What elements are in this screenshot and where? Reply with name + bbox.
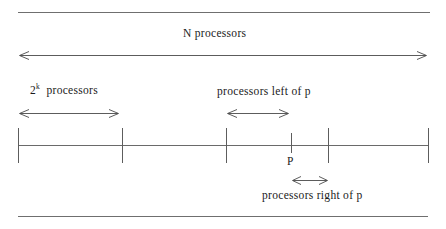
tick-segment-end: [328, 128, 329, 163]
n-processors-arrow: [18, 50, 428, 61]
processor-axis-line: [18, 145, 428, 146]
processors-right-of-p-label: processors right of p: [262, 190, 363, 202]
n-processors-label: N processors: [183, 28, 246, 40]
tick-two-k-boundary: [122, 128, 123, 163]
processor-line-diagram: N processors 2k processors processors le…: [0, 0, 446, 229]
bottom-rule: [18, 216, 428, 217]
two-k-suffix: processors: [46, 84, 98, 96]
processors-left-of-p-arrow: [226, 108, 290, 119]
tick-p-position: [291, 133, 292, 153]
two-k-exponent: k: [36, 82, 40, 91]
p-marker-label: P: [287, 156, 294, 168]
top-rule: [18, 12, 430, 13]
tick-left-end: [18, 128, 19, 163]
processors-right-of-p-arrow: [291, 175, 329, 186]
tick-segment-start: [226, 128, 227, 163]
tick-right-end: [428, 128, 429, 163]
processors-left-of-p-label: processors left of p: [217, 86, 311, 98]
two-k-processors-arrow: [18, 108, 120, 119]
two-k-processors-label: 2k processors: [30, 85, 98, 97]
